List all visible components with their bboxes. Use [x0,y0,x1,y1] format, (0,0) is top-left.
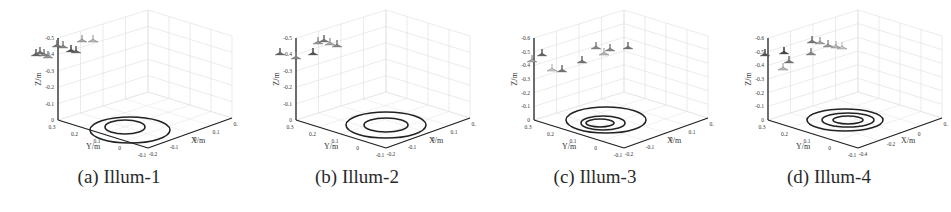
light-source-icon [58,41,68,48]
light-source-icon [52,40,62,47]
svg-text:0: 0 [828,145,831,151]
plot-3d-b: -0.5-0.4-0.3-0.2-0.10Z/m0.30.20.10-0.1Y/… [238,0,476,165]
svg-text:X/m: X/m [191,136,206,145]
svg-text:0: 0 [527,117,530,123]
svg-text:0.3: 0.3 [49,124,56,130]
subplot-caption: (d) Illum-4 [710,166,948,188]
svg-text:Y/m: Y/m [796,142,811,151]
svg-text:X/m: X/m [901,136,916,145]
light-source-icon [778,63,788,70]
svg-text:-0.1: -0.1 [848,152,857,158]
svg-text:0: 0 [289,117,292,123]
light-source-icon [605,44,615,51]
svg-text:-0.3: -0.3 [755,76,764,82]
light-source-icon [527,55,537,62]
svg-text:0: 0 [594,145,597,151]
svg-text:Z/m: Z/m [744,72,753,86]
svg-text:0: 0 [118,145,121,151]
trajectory-ellipse [822,113,874,127]
svg-text:-0.5: -0.5 [521,49,530,55]
light-source-icon [77,35,87,42]
svg-text:X/m: X/m [429,136,444,145]
light-source-icon [577,56,587,63]
svg-text:-0.2: -0.2 [45,84,54,90]
plot-3d-a: -0.5-0.4-0.3-0.2-0.10Z/m0.30.20.10-0.1Y/… [0,0,238,165]
svg-text:-0.3: -0.3 [283,68,292,74]
svg-text:0.1: 0.1 [689,129,696,135]
svg-text:-0.1: -0.1 [755,103,764,109]
plot-3d-c: -0.6-0.5-0.4-0.3-0.2-0.10Z/m0.30.20.10-0… [476,0,714,165]
svg-text:-0.5: -0.5 [45,35,54,41]
svg-text:-0.4: -0.4 [283,51,292,57]
svg-text:0.3: 0.3 [525,124,532,130]
plot-3d-d: -0.6-0.5-0.4-0.3-0.2-0.10Z/m0.30.20.10-0… [710,0,948,165]
svg-text:-0.2: -0.2 [887,141,896,147]
svg-text:-0.1: -0.1 [45,101,54,107]
svg-text:-0.4: -0.4 [755,62,764,68]
svg-text:0: 0 [918,131,921,137]
svg-text:-0.2: -0.2 [283,84,292,90]
subplot-caption: (b) Illum-2 [238,166,476,188]
light-source-icon [591,42,601,49]
svg-text:0: 0 [761,117,764,123]
svg-text:-0.5: -0.5 [755,49,764,55]
light-source-icon [806,48,816,55]
svg-text:-0.1: -0.1 [646,144,655,150]
svg-text:-0.1: -0.1 [521,103,530,109]
svg-text:-0.2: -0.2 [521,90,530,96]
light-source-icon [319,35,329,42]
svg-text:0.2: 0.2 [781,131,788,137]
svg-text:-0.3: -0.3 [45,68,54,74]
light-source-icon [71,46,81,53]
svg-text:0.3: 0.3 [287,124,294,130]
svg-text:X/m: X/m [667,136,682,145]
light-source-icon [332,40,342,47]
trajectory-ellipse [586,119,614,127]
svg-text:Z/m: Z/m [510,72,519,86]
subplot-caption: (a) Illum-1 [0,166,238,188]
light-source-icon [88,35,98,42]
light-source-icon [837,42,847,49]
light-source-icon [547,64,557,71]
subplot-a: -0.5-0.4-0.3-0.2-0.10Z/m0.30.20.10-0.1Y/… [0,0,238,212]
light-source-icon [557,65,567,72]
subplot-d: -0.6-0.5-0.4-0.3-0.2-0.10Z/m0.30.20.10-0… [710,0,948,212]
svg-text:-0.4: -0.4 [859,151,868,157]
svg-text:-0.1: -0.1 [170,144,179,150]
svg-text:0: 0 [356,145,359,151]
svg-text:-0.5: -0.5 [283,35,292,41]
svg-text:0.3: 0.3 [759,124,766,130]
svg-text:0: 0 [51,117,54,123]
light-source-icon [815,37,825,44]
svg-text:Y/m: Y/m [562,142,577,151]
svg-text:-0.2: -0.2 [149,151,158,157]
subplot-b: -0.5-0.4-0.3-0.2-0.10Z/m0.30.20.10-0.1Y/… [238,0,476,212]
svg-text:Y/m: Y/m [86,142,101,151]
svg-text:0.1: 0.1 [213,129,220,135]
svg-text:Z/m: Z/m [272,72,281,86]
svg-text:-0.2: -0.2 [625,151,634,157]
light-source-icon [831,41,841,48]
subplot-c: -0.6-0.5-0.4-0.3-0.2-0.10Z/m0.30.20.10-0… [476,0,714,212]
light-source-icon [623,42,633,49]
svg-text:0.2: 0.2 [944,121,948,127]
svg-text:-0.6: -0.6 [755,35,764,41]
svg-text:0.2: 0.2 [309,131,316,137]
svg-text:Z/m: Z/m [34,72,43,86]
svg-text:Y/m: Y/m [324,142,339,151]
svg-text:-0.1: -0.1 [408,144,417,150]
subplot-caption: (c) Illum-3 [476,166,714,188]
svg-text:0.2: 0.2 [547,131,554,137]
svg-text:-0.3: -0.3 [521,76,530,82]
light-source-icon [784,56,794,63]
svg-text:-0.1: -0.1 [376,152,385,158]
svg-text:-0.1: -0.1 [138,152,147,158]
svg-text:0.2: 0.2 [71,131,78,137]
svg-text:-0.4: -0.4 [521,62,530,68]
svg-text:-0.2: -0.2 [387,151,396,157]
trajectory-ellipse [581,116,625,130]
light-source-icon [823,40,833,47]
svg-text:-0.2: -0.2 [755,90,764,96]
svg-text:-0.6: -0.6 [521,35,530,41]
svg-text:-0.1: -0.1 [614,152,623,158]
